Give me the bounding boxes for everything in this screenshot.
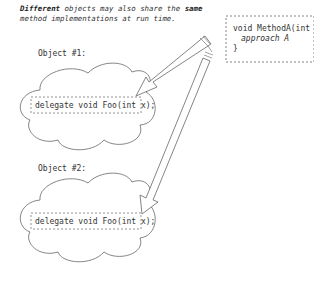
- object-2-label: Object #2:: [38, 164, 86, 173]
- method-signature: void MethodA(int x) {: [233, 24, 314, 33]
- object-1-label: Object #1:: [38, 49, 86, 58]
- method-body: approach A: [241, 34, 289, 43]
- object-2-delegate: delegate void Foo(int x);: [35, 217, 155, 226]
- method-box: void MethodA(int x) { approach A }: [226, 16, 314, 62]
- arrow-to-object-2: [140, 46, 213, 214]
- method-close: }: [233, 44, 238, 53]
- diagram: void MethodA(int x) { approach A } Objec…: [0, 0, 314, 281]
- object-1-delegate: delegate void Foo(int x);: [35, 101, 155, 110]
